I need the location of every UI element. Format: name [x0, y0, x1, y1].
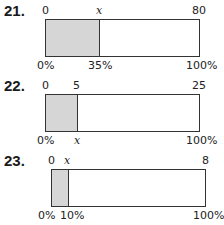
top-label-part: x — [64, 155, 70, 167]
percent-bar-fill — [46, 95, 78, 131]
top-label-whole: 25 — [192, 80, 206, 92]
top-label-start: 0 — [48, 155, 55, 167]
problem-22: 22. 0 5 25 0% x 100% — [0, 75, 224, 150]
bottom-label-part: 10% — [60, 210, 84, 222]
percent-bar-fill — [52, 170, 69, 206]
problem-number: 23. — [4, 152, 25, 169]
bottom-label-whole: 100% — [186, 60, 217, 72]
bottom-label-start: 0% — [37, 135, 54, 147]
bottom-label-whole: 100% — [193, 210, 224, 222]
top-label-part: x — [96, 5, 102, 17]
bottom-label-start: 0% — [38, 210, 55, 222]
percent-bar — [45, 94, 200, 132]
top-label-start: 0 — [42, 5, 49, 17]
percent-bar — [45, 19, 200, 57]
bottom-label-start: 0% — [37, 60, 54, 72]
percent-bar — [51, 169, 206, 207]
bottom-label-whole: 100% — [186, 135, 217, 147]
top-label-whole: 80 — [192, 5, 206, 17]
problem-number: 21. — [4, 2, 25, 19]
problem-21: 21. 0 x 80 0% 35% 100% — [0, 0, 224, 75]
problem-number: 22. — [4, 77, 25, 94]
bottom-label-part: x — [74, 135, 80, 147]
percent-bar-fill — [46, 20, 100, 56]
top-label-part: 5 — [73, 80, 80, 92]
bottom-label-part: 35% — [88, 60, 112, 72]
top-label-whole: 8 — [202, 155, 209, 167]
problem-23: 23. 0 x 8 0% 10% 100% — [0, 150, 224, 225]
top-label-start: 0 — [42, 80, 49, 92]
